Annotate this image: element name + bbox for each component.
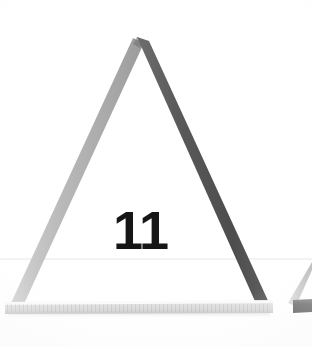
figure-number-label: 11 bbox=[113, 206, 168, 254]
triangle-photo-scene bbox=[0, 0, 312, 347]
figure-container: 11 bbox=[0, 0, 312, 347]
partial-triangle-base bbox=[293, 299, 312, 313]
triangle-right-leg bbox=[137, 37, 270, 308]
triangle-left-leg bbox=[11, 38, 144, 306]
